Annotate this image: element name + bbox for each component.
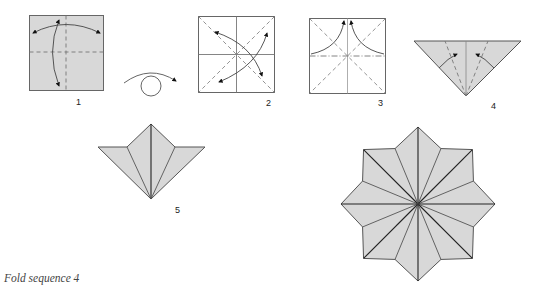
step-1-square xyxy=(30,16,104,91)
turn-over-icon xyxy=(124,73,176,96)
fold-diagram xyxy=(0,0,548,300)
step-label-4: 4 xyxy=(491,101,496,111)
step-2-square xyxy=(199,17,275,93)
figure-caption: Fold sequence 4 xyxy=(4,272,79,284)
step-label-3: 3 xyxy=(378,98,383,108)
step-4-triangle xyxy=(414,41,521,96)
step-3-square xyxy=(310,19,386,94)
completed-star xyxy=(341,127,495,281)
step-label-5: 5 xyxy=(175,205,180,215)
step-label-2: 2 xyxy=(266,98,271,108)
step-label-1: 1 xyxy=(76,97,81,107)
step-5-unit xyxy=(98,124,205,199)
